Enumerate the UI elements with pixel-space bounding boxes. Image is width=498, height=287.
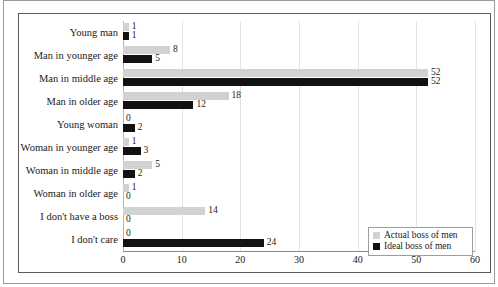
legend-label: Ideal boss of men	[384, 241, 451, 252]
bar-value-ideal: 1	[132, 31, 137, 40]
bar-actual	[123, 138, 129, 146]
category-label: I don't care	[71, 228, 118, 251]
bar-ideal	[123, 147, 141, 155]
category-label: Man in younger age	[34, 44, 118, 67]
bar-row: Man in middle age5252	[123, 67, 475, 90]
bar-actual	[123, 69, 428, 77]
category-label: Young man	[70, 21, 118, 44]
legend-swatch-actual	[373, 232, 380, 239]
bar-actual	[123, 92, 229, 100]
bar-value-ideal: 52	[431, 77, 441, 86]
bar-ideal	[123, 55, 152, 63]
category-label: Woman in older age	[33, 182, 118, 205]
bar-value-actual: 1	[132, 137, 137, 146]
legend-label: Actual boss of men	[384, 230, 458, 241]
bar-row: Woman in older age10	[123, 182, 475, 205]
bar-value-actual: 14	[208, 206, 218, 215]
legend-swatch-ideal	[373, 243, 380, 250]
bar-value-ideal: 2	[138, 169, 143, 178]
bar-ideal	[123, 124, 135, 132]
bar-actual	[123, 23, 129, 31]
bar-value-actual: 1	[132, 183, 137, 192]
bar-value-ideal: 12	[196, 100, 206, 109]
bar-row: I don't have a boss140	[123, 205, 475, 228]
bar-value-actual: 0	[126, 114, 131, 123]
category-label: Woman in middle age	[26, 159, 118, 182]
bar-row: Young man11	[123, 21, 475, 44]
plot-area: 0102030405060Young man11Man in younger a…	[123, 21, 475, 251]
bar-ideal	[123, 101, 193, 109]
x-tick-label-10: 10	[177, 254, 187, 265]
bar-ideal	[123, 170, 135, 178]
x-tick-label-0: 0	[121, 254, 126, 265]
page-frame: 0102030405060Young man11Man in younger a…	[3, 0, 495, 284]
bar-row: Man in older age1812	[123, 90, 475, 113]
bar-value-ideal: 5	[155, 54, 160, 63]
category-label: Young woman	[57, 113, 118, 136]
category-label: Man in middle age	[39, 67, 118, 90]
bar-row: Man in younger age85	[123, 44, 475, 67]
bar-value-actual: 5	[155, 160, 160, 169]
bar-value-ideal: 3	[144, 146, 149, 155]
x-tick-label-20: 20	[235, 254, 245, 265]
chart-legend: Actual boss of menIdeal boss of men	[368, 227, 473, 256]
category-label: Man in older age	[47, 90, 118, 113]
category-label: I don't have a boss	[40, 205, 118, 228]
legend-entry: Ideal boss of men	[373, 241, 468, 252]
bar-value-actual: 0	[126, 229, 131, 238]
legend-entry: Actual boss of men	[373, 230, 468, 241]
category-label: Woman in younger age	[21, 136, 118, 159]
gridline-60	[475, 21, 476, 251]
bar-actual	[123, 207, 205, 215]
bar-value-ideal: 0	[126, 192, 131, 201]
bar-row: Woman in middle age52	[123, 159, 475, 182]
bar-value-ideal: 2	[138, 123, 143, 132]
bar-actual	[123, 46, 170, 54]
bar-value-actual: 18	[232, 91, 242, 100]
chart-container: 0102030405060Young man11Man in younger a…	[18, 13, 491, 273]
x-tick-label-30: 30	[294, 254, 304, 265]
bar-value-ideal: 24	[267, 238, 277, 247]
bar-ideal	[123, 32, 129, 40]
bar-ideal	[123, 78, 428, 86]
bar-ideal	[123, 239, 264, 247]
x-tick-label-40: 40	[353, 254, 363, 265]
bar-row: Young woman02	[123, 113, 475, 136]
bar-row: Woman in younger age13	[123, 136, 475, 159]
bar-value-actual: 8	[173, 45, 178, 54]
bar-value-ideal: 0	[126, 215, 131, 224]
